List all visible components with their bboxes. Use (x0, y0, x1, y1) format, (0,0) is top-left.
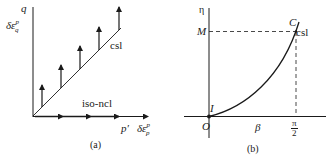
caption-a: (a) (90, 140, 101, 150)
pi-half-denominator: 2 (291, 129, 298, 138)
p-strain-label: δεpp (137, 123, 149, 134)
diagram-canvas (0, 0, 328, 167)
eta-axis-label: η (199, 5, 204, 15)
i-point-label: I (210, 103, 214, 114)
iso-ncl-label: iso-ncl (82, 98, 112, 109)
eta-beta-curve (209, 22, 299, 117)
q-strain-sup: p (15, 18, 19, 26)
pi-half-tick-label: π2 (291, 119, 298, 138)
beta-axis-label: β (255, 122, 260, 133)
m-tick-label: M (197, 26, 206, 37)
origin-point (207, 115, 211, 119)
csl-label-a: csl (110, 40, 122, 51)
q-axis-label: q (21, 3, 27, 14)
p-strain-sup: p (146, 121, 150, 129)
origin-label: O (202, 121, 210, 132)
q-strain-label: δεpq (6, 20, 18, 31)
p-axis-label: p′ (121, 123, 129, 134)
csl-label-b: csl (296, 27, 308, 38)
p-strain-sub: p (146, 129, 150, 137)
q-strain-sub: q (15, 26, 19, 34)
caption-b: (b) (247, 144, 259, 154)
